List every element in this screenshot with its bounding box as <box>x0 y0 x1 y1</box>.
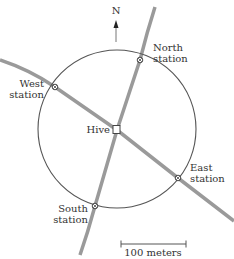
station-marker-east <box>175 175 181 181</box>
hive-icon <box>113 126 120 134</box>
compass-label: N <box>108 5 124 16</box>
station-label-east: East station <box>190 162 225 184</box>
station-suffix: station <box>48 214 88 225</box>
station-name: West <box>4 78 44 89</box>
station-label-west: West station <box>4 78 44 100</box>
station-marker-west <box>52 84 58 90</box>
station-name: East <box>190 162 225 173</box>
station-label-south: South station <box>48 203 88 225</box>
station-marker-north <box>137 57 143 63</box>
station-name: South <box>48 203 88 214</box>
north-arrow-icon <box>114 20 119 42</box>
station-name: North <box>153 42 188 53</box>
scale-bar-label: 100 meters <box>118 247 188 258</box>
map-graphic <box>0 0 234 259</box>
station-suffix: station <box>190 173 225 184</box>
station-suffix: station <box>4 89 44 100</box>
station-label-north: North station <box>153 42 188 64</box>
station-marker-south <box>92 203 98 209</box>
station-suffix: station <box>153 53 188 64</box>
hive-label: Hive <box>78 124 110 135</box>
hive-station-map: N Hive North station West station East s… <box>0 0 234 259</box>
